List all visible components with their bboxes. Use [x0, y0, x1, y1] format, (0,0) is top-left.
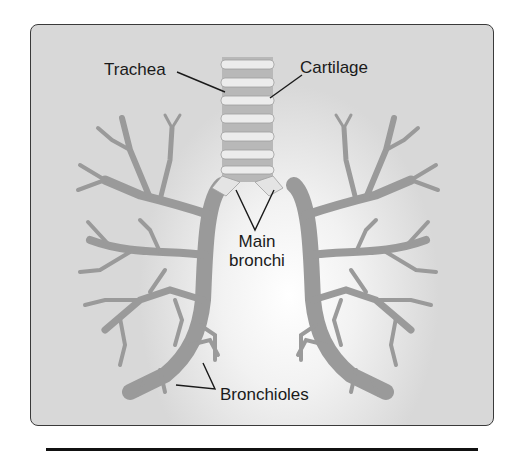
label-cartilage: Cartilage	[300, 58, 368, 77]
label-main-bronchi-line1: Main	[222, 232, 292, 251]
right-lung-airways	[294, 115, 438, 395]
label-main-bronchi: Main bronchi	[222, 232, 292, 270]
label-main-bronchi-line2: bronchi	[222, 251, 292, 270]
label-trachea: Trachea	[104, 60, 166, 79]
left-lung-airways	[78, 115, 222, 395]
bronchial-tree-illustration	[0, 0, 516, 451]
trachea	[212, 57, 283, 196]
label-bronchioles: Bronchioles	[220, 385, 309, 404]
